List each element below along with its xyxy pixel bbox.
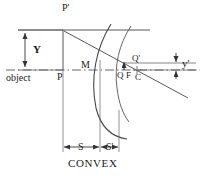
label-object-point-base: P [57, 72, 63, 82]
label-object-word: object [6, 73, 30, 83]
label-caption-convex: CONVEX [68, 158, 117, 169]
label-image-point-base: Q [117, 71, 124, 80]
label-image-point-top: Q' [132, 54, 140, 63]
mirror-surface [94, 24, 127, 139]
label-image-distance: S' [106, 142, 113, 152]
convex-mirror-ray-diagram: P' object P Y M Q' Q F C y' S S' CONVEX [0, 0, 217, 185]
convex-mirror-arc [94, 24, 127, 139]
dimension-extension-lines [63, 60, 119, 152]
label-mirror: M [81, 60, 90, 70]
label-center-of-curvature: C [135, 73, 141, 82]
label-object-height: Y [33, 44, 41, 55]
label-image-height: y' [182, 58, 189, 69]
label-object-point-top: P' [62, 3, 69, 13]
label-object-distance: S [78, 142, 84, 152]
label-focal-point: F [126, 71, 131, 80]
